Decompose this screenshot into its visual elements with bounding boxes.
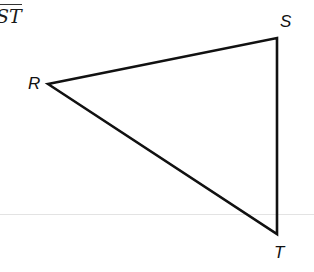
triangle-rst-diagram bbox=[0, 0, 314, 272]
vertex-s-label: S bbox=[280, 12, 291, 32]
vertex-t-label: T bbox=[274, 243, 284, 263]
triangle-rst bbox=[48, 38, 277, 234]
vertex-r-label: R bbox=[28, 74, 40, 94]
segment-st-label: ST bbox=[0, 4, 22, 26]
